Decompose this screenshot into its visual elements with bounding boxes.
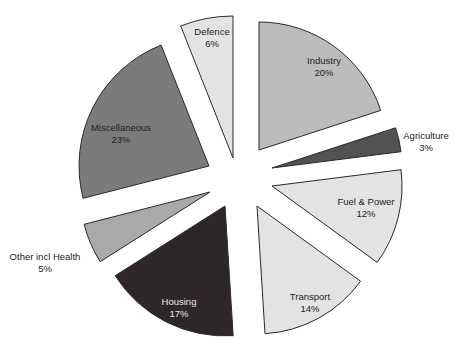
slice-label-name: Agriculture — [403, 130, 448, 141]
slice-label-other-incl-health: Other incl Health5% — [10, 251, 81, 274]
slice-label-name: Miscellaneous — [91, 122, 151, 133]
pie-slice-industry — [259, 22, 381, 150]
slice-label-name: Other incl Health — [10, 251, 81, 262]
slice-label-percent: 5% — [38, 263, 52, 274]
slice-label-percent: 3% — [419, 142, 433, 153]
slice-label-percent: 17% — [169, 308, 189, 319]
pie-slices — [79, 16, 402, 336]
exploded-pie-chart: Industry20%Agriculture3%Fuel & Power12%T… — [0, 0, 466, 347]
slice-label-percent: 14% — [300, 303, 320, 314]
slice-label-percent: 20% — [314, 67, 334, 78]
slice-label-percent: 23% — [111, 134, 131, 145]
slice-label-name: Industry — [307, 55, 341, 66]
slice-label-name: Defence — [194, 26, 229, 37]
slice-label-name: Transport — [290, 291, 331, 302]
slice-label-percent: 6% — [205, 38, 219, 49]
slice-label-name: Fuel & Power — [337, 196, 394, 207]
slice-label-percent: 12% — [356, 208, 376, 219]
slice-label-name: Housing — [162, 296, 197, 307]
slice-label-agriculture: Agriculture3% — [403, 130, 448, 153]
